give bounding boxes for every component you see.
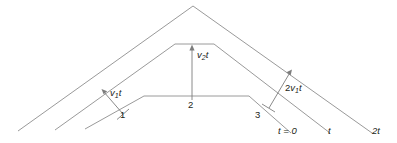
label-v1t-subscript: 1	[115, 92, 119, 99]
label-two-v1t-subscript: 1	[295, 87, 299, 94]
label-t-two: 2t	[372, 126, 380, 136]
label-v2t-subscript: 2	[202, 54, 206, 61]
v2t-arrowhead-icon	[189, 45, 194, 51]
wavefront-2t	[18, 6, 372, 133]
label-t-zero-text: t = 0	[278, 125, 297, 136]
two-v1t-foot-tick	[262, 104, 275, 112]
label-v1t: v1t	[110, 88, 121, 98]
label-t-two-text: 2t	[372, 125, 380, 136]
label-point-3: 3	[255, 110, 260, 120]
label-two-v1t: 2v1t	[285, 83, 302, 93]
label-v1t-time: t	[119, 87, 122, 98]
label-t-zero: t = 0	[278, 126, 297, 136]
label-point-1: 1	[120, 110, 125, 120]
label-two-v1t-time: t	[299, 82, 302, 93]
label-point-2: 2	[188, 100, 193, 110]
label-t-one: t	[328, 126, 331, 136]
label-v2t-time: t	[206, 49, 209, 60]
wavefront-diagram: v1t v2t 2v1t 1 2 3 t = 0 t 2t	[0, 0, 397, 143]
label-v2t: v2t	[197, 50, 208, 60]
label-t-one-text: t	[328, 125, 331, 136]
diagram-canvas	[0, 0, 397, 143]
